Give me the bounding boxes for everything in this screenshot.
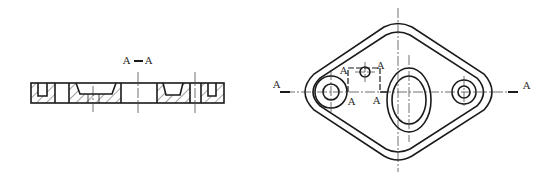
plan-view: A A A A A A <box>272 8 531 172</box>
section-title-left-letter: A <box>122 55 131 66</box>
cut-label-step-top-left: A <box>339 65 348 76</box>
engineering-drawing: A A <box>0 0 557 185</box>
section-centerlines <box>93 72 195 113</box>
cut-label-left-end: A <box>272 79 281 90</box>
section-view-a-a: A A <box>31 55 224 113</box>
cut-label-step-bottom-left: A <box>347 96 356 107</box>
section-title-right-letter: A <box>144 55 153 66</box>
cut-label-right-end: A <box>522 80 531 91</box>
cut-label-step-bottom-right: A <box>372 95 381 106</box>
cut-label-step-top-right: A <box>376 60 385 71</box>
